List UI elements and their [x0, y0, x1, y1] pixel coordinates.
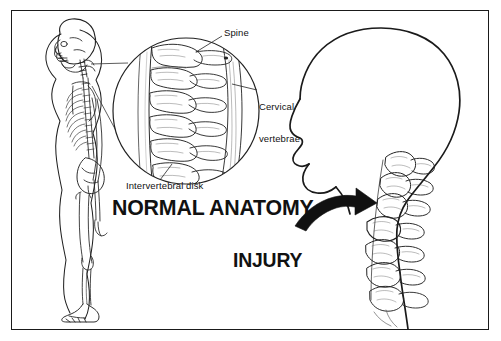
heading-normal-anatomy: NORMAL ANATOMY	[112, 196, 314, 221]
label-cervical-line1: Cervical	[259, 102, 300, 113]
label-cervical-vertebrae: Cervical vertebrae	[259, 81, 300, 166]
label-spine: Spine	[224, 28, 249, 39]
label-intervertebral-disk: Intervertebral disk	[126, 181, 203, 192]
head-profile	[290, 28, 460, 329]
magnifier-circle	[113, 38, 259, 185]
skeleton-figure	[46, 19, 107, 322]
label-cervical-line2: vertebrae	[259, 134, 300, 145]
illustration-artwork	[0, 0, 501, 341]
injured-spine	[366, 152, 434, 327]
heading-injury: INJURY	[233, 249, 302, 271]
medical-illustration-figure: Spine Cervical vertebrae Intervertebral …	[0, 0, 501, 341]
